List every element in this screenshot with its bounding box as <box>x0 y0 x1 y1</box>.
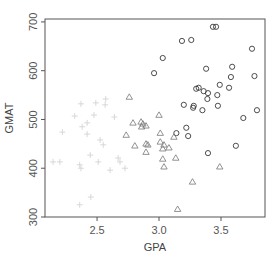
plus-point <box>79 124 85 130</box>
plus-point <box>72 113 78 119</box>
triangle-point <box>189 179 195 184</box>
triangle-point <box>132 143 138 148</box>
plus-point <box>78 101 84 107</box>
y-tick-label: 400 <box>27 159 39 177</box>
plus-point <box>57 159 63 165</box>
circle-point <box>189 37 194 42</box>
triangle-point <box>217 164 223 169</box>
triangle-point <box>174 206 180 211</box>
plus-point <box>84 131 90 137</box>
plus-point <box>50 159 56 165</box>
circle-point <box>151 71 156 76</box>
x-axis-label: GPA <box>144 241 167 253</box>
plus-point <box>77 202 83 208</box>
plus-point <box>77 162 83 168</box>
triangle-point <box>130 120 136 125</box>
triangle-point <box>126 94 132 99</box>
x-tick-label: 3.0 <box>151 224 166 236</box>
triangle-point <box>143 149 149 154</box>
triangle-point <box>160 156 166 161</box>
circle-point <box>184 125 189 130</box>
series-group-3 <box>50 96 128 208</box>
triangle-point <box>161 164 167 169</box>
y-tick-label: 500 <box>27 110 39 128</box>
circle-point <box>233 143 238 148</box>
plus-point <box>111 114 117 120</box>
circle-point <box>228 74 233 79</box>
plus-point <box>59 129 65 135</box>
y-axis-label: GMAT <box>3 102 15 133</box>
circle-point <box>226 85 231 90</box>
circle-point <box>215 103 220 108</box>
series-group-2 <box>123 94 223 212</box>
x-tick-label: 3.5 <box>213 224 228 236</box>
circle-point <box>179 38 184 43</box>
circle-point <box>200 108 205 113</box>
circle-point <box>249 46 254 51</box>
triangle-point <box>156 112 162 117</box>
circle-point <box>241 115 246 120</box>
triangle-point <box>160 146 166 151</box>
scatter-chart: 2.53.03.5 300400500600700 GPA GMAT <box>0 0 278 263</box>
plus-point <box>84 120 90 126</box>
plus-point <box>102 102 108 108</box>
plus-point <box>91 112 97 118</box>
plus-point <box>87 152 93 158</box>
y-tick-label: 300 <box>27 208 39 226</box>
circle-point <box>204 66 209 71</box>
circle-point <box>205 151 210 156</box>
y-tick-label: 600 <box>27 62 39 80</box>
series-group-1 <box>151 24 259 156</box>
circle-point <box>252 73 257 78</box>
plus-point <box>103 96 109 102</box>
x-tick-label: 2.5 <box>89 224 104 236</box>
y-axis: 300400500600700 <box>27 13 45 226</box>
plus-point <box>122 165 128 171</box>
plus-point <box>95 159 101 165</box>
plus-point <box>100 142 106 148</box>
plus-point <box>88 194 94 200</box>
triangle-point <box>157 139 163 144</box>
circle-point <box>230 64 235 69</box>
circle-point <box>217 82 222 87</box>
plus-point <box>93 100 99 106</box>
circle-point <box>205 96 210 101</box>
plot-frame <box>45 19 265 217</box>
y-tick-label: 700 <box>27 13 39 31</box>
circle-point <box>160 55 165 60</box>
circle-point <box>213 24 218 29</box>
plus-point <box>97 137 103 143</box>
circle-point <box>205 91 210 96</box>
circle-point <box>186 133 191 138</box>
circle-point <box>181 102 186 107</box>
triangle-point <box>123 132 129 137</box>
triangle-point <box>157 130 163 135</box>
circle-point <box>254 108 259 113</box>
plus-point <box>78 165 84 171</box>
plus-point <box>107 167 113 173</box>
triangle-point <box>173 155 179 160</box>
x-axis: 2.53.03.5 <box>89 217 228 236</box>
data-points <box>50 24 259 211</box>
circle-point <box>215 92 220 97</box>
